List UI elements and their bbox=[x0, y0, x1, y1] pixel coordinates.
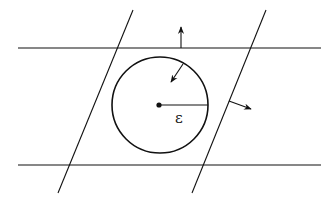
radius-label: ε bbox=[175, 109, 183, 127]
right-normal-arrow bbox=[229, 101, 251, 109]
inward-arrow bbox=[171, 64, 183, 82]
diagram-canvas: ε bbox=[0, 0, 336, 200]
